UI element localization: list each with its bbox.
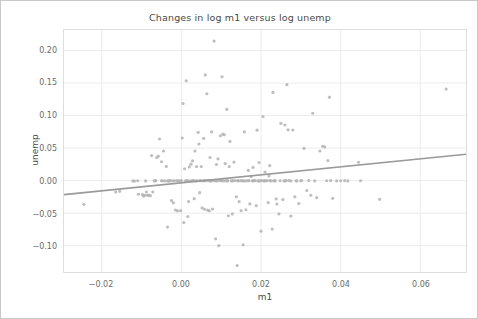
scatter-point (181, 102, 184, 105)
scatter-point (188, 165, 191, 168)
scatter-point (302, 147, 305, 150)
scatter-point (343, 179, 346, 182)
scatter-point (228, 140, 231, 143)
scatter-point (331, 197, 334, 200)
scatter-point (325, 179, 328, 182)
scatter-point (226, 179, 229, 182)
scatter-point (144, 179, 147, 182)
scatter-point (357, 161, 360, 164)
scatter-point (205, 92, 208, 95)
scatter-point (259, 230, 262, 233)
scatter-point (195, 165, 198, 168)
scatter-point (335, 179, 338, 182)
scatter-point (235, 195, 238, 198)
scatter-point (197, 131, 200, 134)
scatter-point (180, 179, 183, 182)
scatter-point (176, 209, 179, 212)
scatter-point (82, 203, 85, 206)
scatter-point (150, 154, 153, 157)
scatter-point (231, 179, 234, 182)
scatter-point (252, 179, 255, 182)
scatter-point (311, 112, 314, 115)
scatter-point (263, 179, 266, 182)
scatter-point (172, 201, 175, 204)
scatter-point (157, 155, 160, 158)
scatter-point (208, 209, 211, 212)
scatter-point (328, 96, 331, 99)
scatter-point (263, 170, 266, 173)
scatter-point (359, 179, 362, 182)
scatter-point (191, 159, 194, 162)
scatter-point (285, 83, 288, 86)
x-axis-label: m1 (225, 292, 305, 302)
scatter-point (166, 226, 169, 229)
scatter-point (114, 190, 117, 193)
scatter-point (145, 190, 148, 193)
scatter-point (315, 196, 318, 199)
scatter-point (275, 202, 278, 205)
scatter-point (216, 157, 219, 160)
scatter-point (160, 160, 163, 163)
scatter-point (378, 198, 381, 201)
scatter-point (163, 179, 166, 182)
scatter-point (286, 128, 289, 131)
scatter-point (300, 179, 303, 182)
scatter-point (242, 243, 245, 246)
chart-title: Changes in log m1 versus log unemp (1, 12, 478, 23)
scatter-point (133, 180, 136, 183)
scatter-point (326, 159, 329, 162)
scatter-point (215, 163, 218, 166)
scatter-point (136, 179, 139, 182)
scatter-point (214, 237, 217, 240)
scatter-point (212, 39, 215, 42)
y-tick-label: 0.20 (21, 45, 57, 54)
scatter-point (202, 137, 205, 140)
y-tick-label: −0.05 (21, 209, 57, 218)
scatter-point (255, 204, 258, 207)
scatter-point (281, 198, 284, 201)
regression-line (64, 154, 466, 194)
scatter-point (251, 166, 254, 169)
scatter-point (273, 179, 276, 182)
x-tick-label: 0.06 (412, 280, 430, 289)
scatter-point (182, 221, 185, 224)
scatter-point (179, 209, 182, 212)
scatter-point (211, 208, 214, 211)
scatter-point (160, 179, 163, 182)
scatter-point (445, 87, 448, 90)
scatter-point (151, 190, 154, 193)
scatter-point (193, 149, 196, 152)
scatter-point (261, 115, 264, 118)
scatter-point (339, 179, 342, 182)
scatter-point (137, 193, 140, 196)
scatter-point (198, 191, 201, 194)
scatter-point (186, 215, 189, 218)
x-tick-label: 0.04 (332, 280, 350, 289)
scatter-point (257, 161, 260, 164)
scatter-point (231, 212, 234, 215)
scatter-point (277, 212, 280, 215)
scatter-point (289, 214, 292, 217)
scatter-point (232, 160, 235, 163)
scatter-point (236, 179, 239, 182)
scatter-point (203, 208, 206, 211)
scatter-point (271, 91, 274, 94)
scatter-point (238, 200, 241, 203)
scatter-point (244, 208, 247, 211)
scatter-point (154, 179, 157, 182)
scatter-point (309, 194, 312, 197)
scatter-point (318, 149, 321, 152)
scatter-point (200, 165, 203, 168)
y-tick-label: 0.15 (21, 78, 57, 87)
scatter-point (283, 123, 286, 126)
scatter-point (257, 179, 260, 182)
scatter-point (248, 202, 251, 205)
scatter-point (247, 179, 250, 182)
y-tick-label: 0.05 (21, 144, 57, 153)
scatter-point (224, 162, 227, 165)
scatter-point (181, 136, 184, 139)
x-tick-label: 0.00 (172, 280, 190, 289)
scatter-point (234, 179, 237, 182)
scatter-point (313, 179, 316, 182)
scatter-point (162, 149, 165, 152)
